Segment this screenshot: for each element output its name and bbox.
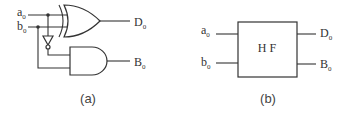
- output-b0-label: B0: [134, 55, 146, 71]
- figure-a-caption: (a): [80, 91, 96, 106]
- figure-a-logic-circuit: a0 b0 D0 B0 (a): [17, 5, 147, 106]
- not-gate-icon: [43, 36, 53, 45]
- block-input-a0-label: a0: [201, 23, 210, 39]
- block-output-d0-label: D0: [320, 26, 333, 42]
- block-output-b0-label: B0: [320, 57, 332, 73]
- figure-b-block-diagram: H F a0 b0 D0 B0 (b): [201, 22, 333, 106]
- wire-not-to-and: [48, 49, 70, 55]
- block-input-b0-label: b0: [201, 55, 211, 71]
- xor-gate-icon: [59, 5, 100, 37]
- and-gate-icon: [70, 47, 107, 75]
- half-subtractor-diagram: a0 b0 D0 B0 (a) H F: [0, 0, 348, 118]
- not-gate-bubble: [46, 45, 50, 49]
- input-b0-label: b0: [17, 19, 27, 35]
- output-d0-label: D0: [134, 15, 147, 31]
- hf-block-label: H F: [258, 41, 277, 55]
- figure-b-caption: (b): [260, 91, 276, 106]
